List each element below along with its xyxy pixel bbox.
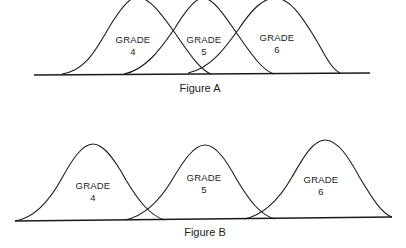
figure-a-caption: Figure A [180,82,222,94]
figure-a-label-grade-5-title: GRADE [187,34,222,45]
figure-b-label-grade-4-number: 4 [90,192,95,203]
figure-b-label-grade-5-title: GRADE [187,172,222,183]
figure-b: GRADE 4 GRADE 5 GRADE 6 Figure B [15,140,392,238]
figure-a-label-grade-4-number: 4 [130,46,135,57]
figure-a-baseline [34,73,370,75]
figure-b-caption: Figure B [184,226,226,238]
figure-b-label-grade-6-title: GRADE [304,174,339,185]
figure-a-label-grade-5-number: 5 [201,46,206,57]
figure-a: GRADE 4 GRADE 5 GRADE 6 Figure A [34,0,370,94]
figure-b-baseline [15,217,392,221]
figure-b-label-grade-4-title: GRADE [76,180,111,191]
figure-a-label-grade-6-number: 6 [274,44,279,55]
distribution-figures: GRADE 4 GRADE 5 GRADE 6 Figure A GRADE 4… [0,0,406,248]
figure-b-label-grade-5-number: 5 [201,184,206,195]
figure-a-label-grade-4-title: GRADE [116,34,151,45]
figure-b-label-grade-6-number: 6 [318,186,323,197]
figure-a-label-grade-6-title: GRADE [260,32,295,43]
